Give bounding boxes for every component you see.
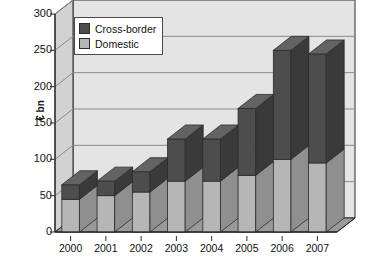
- legend-item-domestic: Domestic: [79, 36, 156, 51]
- x-axis-tick: 2007: [300, 243, 334, 254]
- legend-swatch-domestic: [79, 38, 90, 49]
- chart-legend: Cross-border Domestic: [74, 17, 163, 55]
- chart-figure: € bn 050100150200250300 2000200120022003…: [0, 0, 370, 266]
- legend-swatch-cross-border: [79, 23, 90, 34]
- x-axis-tick: 2001: [89, 243, 123, 254]
- legend-item-cross-border: Cross-border: [79, 21, 156, 36]
- x-axis-tick: 2003: [159, 243, 193, 254]
- x-axis-tick-labels: 20002001200220032004200520062007: [0, 0, 370, 266]
- x-axis-tick: 2002: [124, 243, 158, 254]
- x-axis-tick: 2000: [54, 243, 88, 254]
- x-axis-tick: 2006: [265, 243, 299, 254]
- x-axis-tick: 2004: [195, 243, 229, 254]
- legend-label-domestic: Domestic: [95, 38, 139, 50]
- x-axis-tick: 2005: [230, 243, 264, 254]
- legend-label-cross-border: Cross-border: [95, 23, 156, 35]
